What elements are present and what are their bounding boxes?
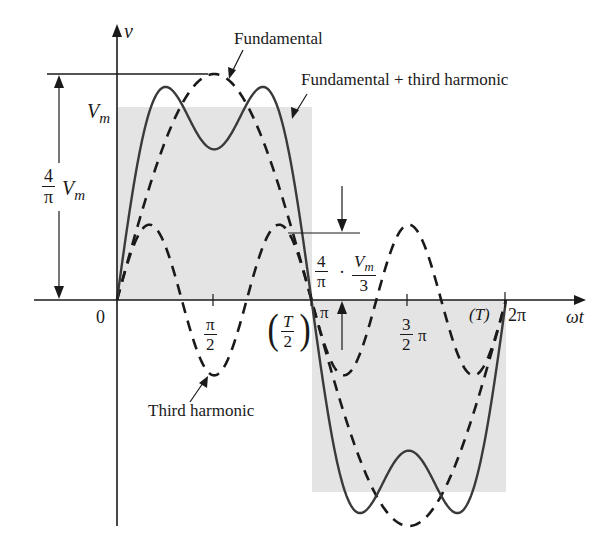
square-wave-positive-half — [117, 107, 312, 300]
y-axis-arrowhead-icon — [112, 24, 122, 37]
third-amplitude-arrowhead-down-icon — [337, 219, 347, 232]
fund-amplitude-vm: Vm — [62, 178, 85, 203]
fraction-numerator: 4 — [42, 167, 55, 187]
fundamental-leader-arrowhead-icon — [228, 67, 236, 79]
third-harmonic-label: Third harmonic — [148, 402, 254, 419]
x-axis-arrowhead-icon — [574, 295, 586, 305]
x-axis-label: ωt — [566, 308, 584, 326]
vm-label-sub: m — [99, 110, 110, 126]
fraction-numerator: Vm — [352, 253, 376, 276]
fund-amplitude-vm-main: V — [62, 177, 74, 199]
tick-label-2pi: 2π — [508, 306, 526, 324]
half-period-close-paren: ) — [299, 308, 310, 350]
third-harmonic-leader-line — [190, 383, 203, 402]
fraction-numerator: π — [204, 316, 217, 335]
sum-label: Fundamental + third harmonic — [301, 71, 508, 88]
dimension-arrowhead-up-icon — [54, 75, 64, 88]
fundamental-leader-line — [232, 50, 243, 72]
vm-label-main: V — [87, 100, 99, 122]
fraction-numerator: 4 — [315, 253, 328, 272]
fraction-numerator-sub: m — [364, 260, 373, 274]
third-amplitude-fraction-1: 4 π — [315, 253, 328, 290]
half-period-fraction: T 2 — [281, 313, 294, 350]
fund-amplitude-fraction: 4 π — [42, 167, 55, 206]
fraction-numerator-main: V — [354, 252, 364, 271]
tick-label-3pi-over-2: 3 2 — [400, 316, 413, 353]
fraction-denominator: π — [44, 187, 53, 206]
dimension-arrowhead-down-icon — [54, 286, 64, 299]
fourier-square-wave-diagram: v ωt 0 Fundamental Fundamental + third h… — [0, 0, 616, 554]
fraction-numerator: T — [281, 313, 294, 332]
third-amplitude-dot: · — [339, 263, 345, 281]
fundamental-label: Fundamental — [234, 30, 323, 47]
tick-label-pi-over-2: π 2 — [204, 316, 217, 353]
full-period-label: (T) — [469, 306, 490, 323]
vm-label: Vm — [87, 101, 110, 126]
tick-label-3pi-over-2-suffix: π — [418, 327, 427, 344]
third-amplitude-fraction-2: Vm 3 — [352, 253, 376, 294]
fraction-denominator: 2 — [402, 335, 411, 353]
fund-amplitude-vm-sub: m — [74, 187, 85, 203]
half-period-open-paren: ( — [267, 308, 278, 350]
fraction-denominator: 2 — [283, 332, 292, 350]
origin-label: 0 — [96, 308, 105, 326]
tick-label-pi: π — [320, 304, 329, 321]
fraction-denominator: π — [317, 272, 326, 290]
fraction-numerator: 3 — [400, 316, 413, 335]
y-axis-label: v — [124, 21, 133, 41]
fraction-denominator: 3 — [360, 276, 369, 294]
fraction-denominator: 2 — [206, 335, 215, 353]
